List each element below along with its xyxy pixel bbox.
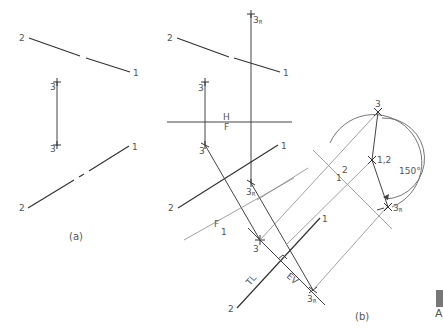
panel-a-bottom-line-label-2: 2 [19, 203, 25, 213]
panel-a-top-line-seg1 [29, 38, 80, 56]
panel-b-fold-1-label: 1 [221, 227, 227, 237]
panel-b-aux1-label-1: 1 [322, 214, 328, 224]
panel-b-ev-label: EV [285, 271, 301, 287]
panel-b-top-line-seg1 [177, 38, 229, 57]
panel-b-tl-label: TL [243, 273, 258, 288]
panel-b-top-line-seg2 [234, 58, 280, 72]
page-edge-marker [436, 290, 443, 307]
panel-a-top-line-label-1: 1 [133, 68, 139, 78]
panel-b-point-3r-top-label: 3R [253, 15, 263, 25]
panel-b-angle-label: 150° [399, 166, 421, 176]
panel-b-fold-1-label-2: 1 [336, 173, 342, 183]
panel-b-point-12-aux2-label: 1,2 [377, 155, 391, 165]
panel-b-point-3-aux1-label: 3 [253, 244, 259, 254]
panel-b-fold-2-label: 2 [342, 165, 348, 175]
panel-b-top-line-label-2: 2 [167, 33, 173, 43]
panel-b-front-line-label-2: 2 [168, 203, 174, 213]
descriptive-geometry-figure: 2 1 3 3 2 1 (a) 2 1 3R 3 [0, 0, 443, 334]
panel-b-front-line [178, 145, 278, 208]
panel-a-bottom-line-seg2 [89, 146, 129, 171]
panel-b-radius-3r [372, 160, 388, 207]
panel-b-projector-extra [257, 168, 308, 200]
panel-b-projector-12-aux2 [286, 160, 372, 245]
panel-a-bottom-line-seg1 [28, 180, 74, 208]
panel-b-radius-3 [372, 112, 378, 160]
panel-b-fold-f-label: F [224, 122, 229, 132]
panel-a-point-3-top-label: 3 [50, 82, 56, 92]
panel-a: 2 1 3 3 2 1 (a) [19, 33, 139, 242]
panel-b-point-3-front-label: 3 [199, 146, 205, 156]
panel-a-top-line-seg2 [86, 58, 130, 72]
panel-a-bottom-line-label-1: 1 [132, 142, 138, 152]
panel-a-top-line-label-2: 2 [19, 33, 25, 43]
panel-b-point-3-top-label: 3 [198, 83, 204, 93]
panel-b-caption: (b) [355, 311, 369, 322]
panel-b: 2 1 3R 3 H F 3 3R 2 1 F 1 [167, 10, 425, 322]
panel-b-top-line-label-1: 1 [283, 68, 289, 78]
panel-b-fold-f-label-2: F [214, 219, 219, 229]
panel-a-point-3-bottom-label: 3 [50, 144, 56, 154]
panel-b-projector-3-aux2 [260, 112, 378, 240]
page-edge-letter: A [435, 307, 443, 320]
panel-b-point-3-aux2-label: 3 [375, 99, 381, 109]
panel-a-caption: (a) [69, 231, 83, 242]
panel-b-aux1-label-2: 2 [228, 304, 234, 314]
panel-b-front-line-label-1: 1 [281, 141, 287, 151]
panel-b-fold-h-label: H [223, 112, 230, 122]
